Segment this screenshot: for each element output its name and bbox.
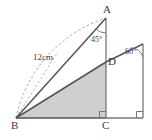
vertex-label-B: B [11, 120, 18, 131]
angle-label-45: 45° [91, 36, 102, 44]
length-label-12cm: 12cm [33, 53, 53, 62]
vertex-label-A: A [103, 4, 111, 15]
angle-arc-A [95, 29, 106, 33]
angle-label-60: 60° [125, 48, 136, 56]
geometry-canvas [0, 0, 152, 140]
geometry-figure: A B C D 45° 60° 12cm [0, 0, 152, 140]
vertex-label-C: C [102, 120, 109, 131]
vertex-label-D: D [108, 56, 116, 67]
right-angle-marker-F [137, 112, 144, 119]
